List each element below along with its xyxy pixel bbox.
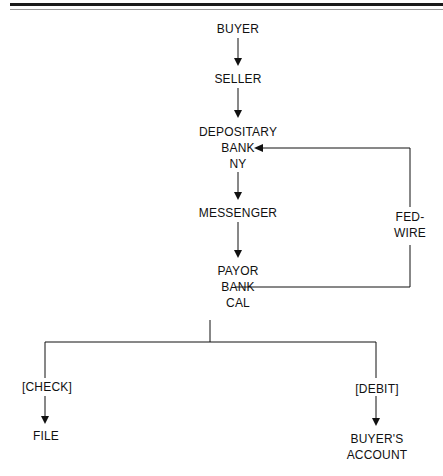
- node-payor-line2: BANK: [217, 279, 258, 295]
- label-debit: [DEBIT]: [355, 381, 398, 397]
- label-check: [CHECK]: [22, 379, 72, 395]
- node-payor-bank: PAYOR BANK CAL: [217, 263, 258, 311]
- node-payor-line3: CAL: [217, 295, 258, 311]
- node-messenger: MESSENGER: [199, 205, 277, 221]
- node-depositary-line1: DEPOSITARY: [199, 124, 277, 140]
- node-seller: SELLER: [214, 71, 261, 87]
- node-buyers-account-line2: ACCOUNT: [347, 447, 408, 463]
- node-buyer: BUYER: [217, 21, 259, 37]
- node-depositary-bank: DEPOSITARY BANK NY: [199, 124, 277, 172]
- node-buyers-account: BUYER'S ACCOUNT: [347, 431, 408, 463]
- label-fedwire-line1: FED-: [394, 209, 426, 225]
- label-fedwire-line2: WIRE: [394, 225, 426, 241]
- node-depositary-line2: BANK: [199, 140, 277, 156]
- node-file: FILE: [33, 428, 59, 444]
- node-payor-line1: PAYOR: [217, 263, 258, 279]
- label-fedwire: FED- WIRE: [394, 209, 426, 241]
- node-depositary-line3: NY: [199, 156, 277, 172]
- node-buyers-account-line1: BUYER'S: [347, 431, 408, 447]
